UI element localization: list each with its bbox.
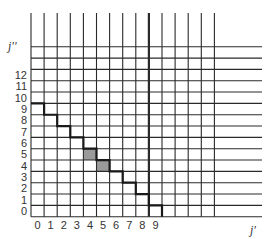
x-tick-label: 0: [34, 219, 40, 231]
horizontal-grid-lines: [31, 47, 262, 217]
y-tick-label: 12: [15, 69, 27, 81]
y-tick-label: 7: [21, 126, 27, 138]
x-tick-label: 3: [74, 219, 80, 231]
y-tick-label: 10: [15, 92, 27, 104]
x-tick-label: 7: [126, 219, 132, 231]
y-tick-label: 2: [21, 182, 27, 194]
y-tick-label: 6: [21, 137, 27, 149]
x-tick-label: 9: [152, 219, 158, 231]
y-axis-label: j'': [6, 39, 17, 53]
x-tick-label: 5: [100, 219, 106, 231]
x-tick-labels: 0123456789: [34, 219, 158, 231]
shaded-cell: [97, 160, 110, 171]
y-tick-label: 1: [21, 194, 27, 206]
x-tick-label: 8: [139, 219, 145, 231]
x-tick-label: 2: [61, 219, 67, 231]
x-tick-label: 6: [113, 219, 119, 231]
y-tick-label: 11: [16, 80, 27, 92]
shaded-cell: [83, 149, 96, 160]
y-tick-label: 3: [21, 171, 27, 183]
y-tick-labels: 0123456789101112: [15, 69, 27, 217]
grid-diagram: 0123456789101112 0123456789 j'' j': [0, 0, 275, 239]
x-axis-label: j': [248, 223, 256, 237]
y-tick-label: 4: [21, 160, 27, 172]
y-tick-label: 0: [21, 205, 27, 217]
x-tick-label: 1: [48, 219, 54, 231]
y-tick-label: 9: [21, 103, 27, 115]
y-tick-label: 8: [21, 114, 27, 126]
x-tick-label: 4: [87, 219, 93, 231]
y-tick-label: 5: [21, 148, 27, 160]
